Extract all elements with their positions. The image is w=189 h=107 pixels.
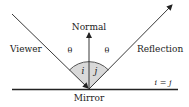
angle-i-label: i bbox=[82, 66, 85, 76]
equation-label: i = j bbox=[155, 78, 172, 87]
viewer-label: Viewer bbox=[9, 44, 43, 54]
reflection-label: Reflection bbox=[137, 44, 183, 54]
theta-right-label: θ bbox=[105, 46, 110, 55]
normal-label: Normal bbox=[72, 22, 106, 32]
reflection-diagram: Normal Viewer Reflection Mirror θ θ i j … bbox=[0, 0, 189, 107]
theta-left-label: θ bbox=[68, 46, 73, 55]
mirror-label: Mirror bbox=[74, 93, 105, 103]
